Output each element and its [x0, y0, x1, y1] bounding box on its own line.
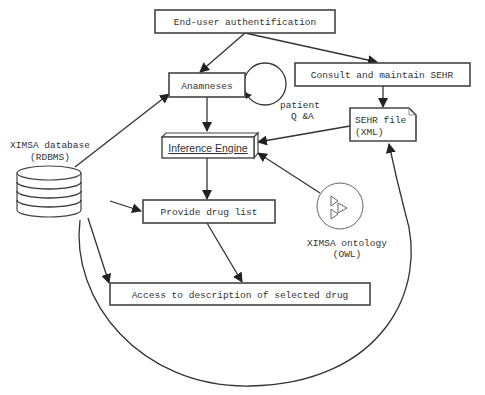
- edge-database-druglist: [110, 201, 141, 211]
- database-label-2: (RDBMS): [30, 152, 70, 163]
- edge-ontology-inference: [258, 153, 320, 193]
- node-inference-engine: Inference Engine: [162, 133, 258, 158]
- node-consult-maintain-sehr: Consult and maintain SEHR: [295, 63, 470, 86]
- node-ximsa-ontology: XIMSA ontology (OWL): [307, 183, 387, 260]
- database-cylinder-icon: [17, 166, 81, 217]
- architecture-diagram: patient Q &A End-user authentification A…: [0, 0, 485, 395]
- sehr-file-label-1: SEHR file: [355, 115, 407, 126]
- ontology-label-2: (OWL): [333, 249, 362, 260]
- node-ximsa-database: XIMSA database (RDBMS): [10, 140, 90, 217]
- anamneses-label: Anamneses: [181, 81, 232, 92]
- edge-database-sehrfile-curve: [79, 144, 411, 386]
- patient-qa-label-2: Q &A: [291, 111, 314, 122]
- sehr-file-label-2: (XML): [355, 127, 384, 138]
- consult-sehr-label: Consult and maintain SEHR: [311, 70, 454, 81]
- access-description-label: Access to description of selected drug: [132, 290, 349, 301]
- provide-drug-list-label: Provide drug list: [161, 207, 258, 218]
- edge-sehrfile-inference: [258, 126, 350, 142]
- node-access-description: Access to description of selected drug: [110, 283, 370, 305]
- patient-qa-label-1: patient: [280, 100, 320, 111]
- node-sehr-file: SEHR file (XML): [350, 108, 416, 141]
- inference-engine-label: Inference Engine: [168, 142, 248, 154]
- edge-database-anamneses: [75, 94, 169, 167]
- node-end-user-authentification: End-user authentification: [155, 10, 335, 33]
- ontology-label-1: XIMSA ontology: [307, 238, 387, 249]
- node-provide-drug-list: Provide drug list: [143, 200, 275, 223]
- edge-druglist-access: [207, 223, 242, 282]
- edge-auth-consult: [245, 33, 377, 62]
- auth-label: End-user authentification: [174, 17, 317, 28]
- edge-database-access: [88, 218, 109, 283]
- edge-auth-anamneses: [200, 33, 245, 72]
- node-anamneses: Anamneses: [169, 73, 245, 97]
- database-label-1: XIMSA database: [10, 140, 90, 151]
